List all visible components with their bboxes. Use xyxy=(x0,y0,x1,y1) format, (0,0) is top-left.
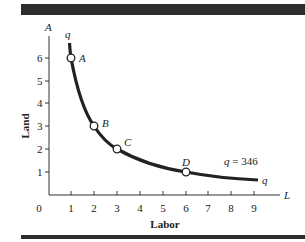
point-c xyxy=(113,145,121,153)
svg-text:D: D xyxy=(181,156,190,168)
svg-text:A: A xyxy=(78,52,86,64)
svg-text:7: 7 xyxy=(205,202,211,214)
svg-text:C: C xyxy=(124,136,132,148)
y-axis-symbol: A xyxy=(44,21,52,33)
x-axis-symbol: L xyxy=(283,189,290,201)
curve-label-end: q xyxy=(262,174,268,186)
svg-text:5: 5 xyxy=(37,75,43,87)
svg-text:3: 3 xyxy=(37,120,43,132)
isoquant-value-label: q = 346 xyxy=(224,155,258,167)
svg-text:2: 2 xyxy=(91,202,97,214)
isoquant-chart: 1 2 3 4 5 6 0 1 2 3 4 5 6 7 8 9 A L Labo… xyxy=(0,0,305,242)
svg-text:1: 1 xyxy=(68,202,74,214)
svg-text:6: 6 xyxy=(183,202,189,214)
svg-text:B: B xyxy=(102,117,109,129)
svg-text:3: 3 xyxy=(114,202,120,214)
svg-text:6: 6 xyxy=(37,52,43,64)
svg-text:0: 0 xyxy=(36,202,42,214)
svg-text:2: 2 xyxy=(37,143,43,155)
y-ticks xyxy=(45,58,49,172)
svg-text:1: 1 xyxy=(37,166,43,178)
y-tick-labels: 1 2 3 4 5 6 xyxy=(37,52,43,178)
point-b xyxy=(90,122,98,130)
y-axis-title: Land xyxy=(19,113,31,138)
svg-text:4: 4 xyxy=(37,97,43,109)
svg-text:8: 8 xyxy=(228,202,234,214)
x-axis-title: Labor xyxy=(150,218,179,230)
svg-text:9: 9 xyxy=(251,202,257,214)
curve-points xyxy=(67,54,190,176)
svg-text:5: 5 xyxy=(160,202,166,214)
x-ticks xyxy=(71,191,254,195)
svg-text:4: 4 xyxy=(137,202,143,214)
point-labels: A B C D xyxy=(78,52,190,168)
point-a xyxy=(67,54,75,62)
point-d xyxy=(182,168,190,176)
curve-label-top: q xyxy=(65,28,71,40)
x-tick-labels: 0 1 2 3 4 5 6 7 8 9 xyxy=(36,202,257,214)
